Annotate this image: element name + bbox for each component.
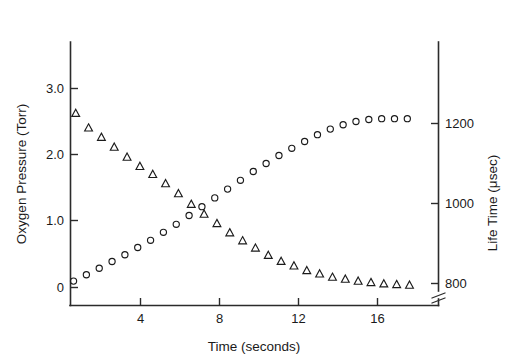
y-ticklabel-1: 1.0 <box>46 213 64 228</box>
scatter-plot: 3.0 2.0 1.0 0 1200 1000 800 4 8 12 16 Ti… <box>0 0 513 361</box>
y-ticklabel-0: 0 <box>57 280 64 295</box>
data-point-circle <box>314 132 320 138</box>
data-point-triangle <box>316 270 324 277</box>
data-point-triangle <box>213 219 221 226</box>
x-ticklabel-16: 16 <box>370 311 384 326</box>
data-point-triangle <box>303 266 311 273</box>
data-point-circle <box>263 160 269 166</box>
data-point-triangle <box>136 162 144 169</box>
data-point-circle <box>147 237 153 243</box>
data-point-circle <box>379 116 385 122</box>
data-point-triangle <box>277 257 285 264</box>
data-point-triangle <box>123 153 131 160</box>
data-point-triangle <box>149 170 157 177</box>
y2-ticklabel-800: 800 <box>445 276 467 291</box>
x-ticklabel-8: 8 <box>216 311 223 326</box>
data-point-circle <box>186 212 192 218</box>
data-point-circle <box>122 252 128 258</box>
data-point-circle <box>404 116 410 122</box>
y-axis-title-right: Life Time (μsec) <box>485 155 500 251</box>
data-point-circle <box>353 118 359 124</box>
data-point-circle <box>340 122 346 128</box>
y-axis-right-ticks: 1200 1000 800 <box>431 116 474 291</box>
y-ticklabel-2: 2.0 <box>46 147 64 162</box>
data-point-circle <box>83 272 89 278</box>
data-point-circle <box>302 138 308 144</box>
data-point-triangle <box>239 237 247 244</box>
data-point-circle <box>225 186 231 192</box>
data-point-circle <box>327 126 333 132</box>
axes-frame <box>70 42 445 306</box>
data-point-triangle <box>354 277 362 284</box>
data-point-triangle <box>187 200 195 207</box>
data-point-circle <box>276 152 282 158</box>
data-point-circle <box>109 258 115 264</box>
data-point-circle <box>289 145 295 151</box>
y-ticklabel-3: 3.0 <box>46 81 64 96</box>
data-point-triangle <box>98 133 106 140</box>
series-life-time-markers <box>70 116 410 285</box>
data-point-circle <box>173 221 179 227</box>
data-point-circle <box>199 204 205 210</box>
data-point-triangle <box>200 210 208 217</box>
data-point-triangle <box>85 124 93 131</box>
data-point-triangle <box>175 190 183 197</box>
y-axis-title-left: Oxygen Pressure (Torr) <box>14 104 29 244</box>
data-point-circle <box>135 244 141 250</box>
data-point-circle <box>366 116 372 122</box>
data-point-circle <box>250 168 256 174</box>
data-point-triangle <box>393 280 401 287</box>
data-point-triangle <box>380 280 388 287</box>
data-point-triangle <box>264 251 272 258</box>
data-point-triangle <box>406 281 414 288</box>
series-oxygen-pressure-markers <box>72 109 414 288</box>
data-point-triangle <box>341 275 349 282</box>
x-axis-ticks: 4 8 12 16 <box>137 298 385 326</box>
x-ticklabel-4: 4 <box>137 311 144 326</box>
data-point-circle <box>391 116 397 122</box>
data-point-triangle <box>110 143 118 150</box>
data-point-circle <box>160 229 166 235</box>
x-axis-title: Time (seconds) <box>208 339 301 354</box>
data-point-triangle <box>252 244 260 251</box>
data-point-triangle <box>162 180 170 187</box>
data-point-circle <box>96 265 102 271</box>
y2-ticklabel-1000: 1000 <box>445 196 474 211</box>
data-point-circle <box>237 177 243 183</box>
data-point-triangle <box>72 109 80 116</box>
data-point-triangle <box>290 262 298 269</box>
data-point-circle <box>212 195 218 201</box>
data-point-triangle <box>226 229 234 236</box>
data-point-triangle <box>367 278 375 285</box>
data-point-triangle <box>329 273 337 280</box>
chart-figure: 3.0 2.0 1.0 0 1200 1000 800 4 8 12 16 Ti… <box>0 0 513 361</box>
data-point-circle <box>70 278 76 284</box>
y2-ticklabel-1200: 1200 <box>445 116 474 131</box>
x-ticklabel-12: 12 <box>291 311 305 326</box>
